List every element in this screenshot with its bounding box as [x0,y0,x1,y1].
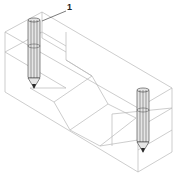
left-probe [28,18,40,89]
right-probe [137,88,149,153]
callout-label: 1 [67,2,72,12]
shelf-edge-top [42,32,66,46]
callout-1: 1 [42,2,72,21]
right-probe-tip [141,148,145,153]
groove-line-3 [100,118,136,146]
isometric-drawing: 1 [0,0,177,191]
block-right-bottom-edge [138,152,172,172]
groove-line-1 [54,76,92,102]
right-shelf-front [100,140,138,146]
callout-leader-line [42,11,66,21]
shelf-back [42,38,66,52]
groove-back-edge [66,60,136,118]
groove-bottom-line [70,104,108,130]
